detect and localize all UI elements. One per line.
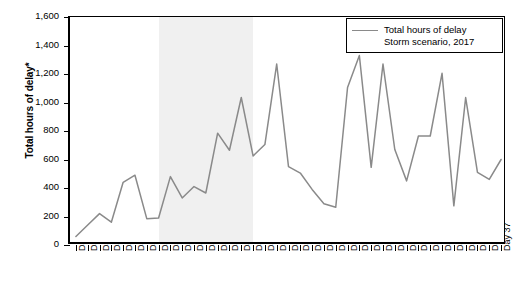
x-axis-tick: [300, 245, 301, 251]
y-axis-tick-label: 800: [43, 125, 59, 135]
legend-entry-line: Total hours of delay Storm scenario, 201…: [352, 24, 496, 47]
x-axis-tick: [359, 245, 360, 251]
y-axis-tick-label: 600: [43, 154, 59, 164]
x-axis-tick: [241, 245, 242, 251]
y-axis-tick: [64, 103, 70, 104]
y-axis-tick: [64, 160, 70, 161]
x-axis-tick: [395, 245, 396, 251]
y-axis-tick-label: 0: [54, 239, 59, 249]
legend-scenario-label: Storm scenario, 2017: [384, 36, 474, 47]
y-axis-tick-label: 1,200: [35, 68, 59, 78]
x-axis-tick: [88, 245, 89, 251]
y-axis-tick-label: 1,000: [35, 97, 59, 107]
x-axis-tick: [182, 245, 183, 251]
x-axis-tick: [489, 245, 490, 251]
x-axis-tick: [147, 245, 148, 251]
chart-figure: Total hours of delay* 02004006008001,000…: [0, 0, 517, 302]
x-axis-tick: [312, 245, 313, 251]
x-axis-tick: [100, 245, 101, 251]
x-axis-tick: [418, 245, 419, 251]
y-axis-tick: [64, 131, 70, 132]
y-axis-tick-label: 200: [43, 211, 59, 221]
x-axis-tick: [123, 245, 124, 251]
x-axis-tick: [383, 245, 384, 251]
x-axis-tick: [229, 245, 230, 251]
x-axis-tick: [371, 245, 372, 251]
y-axis-tick-label: 1,600: [35, 11, 59, 21]
x-axis-tick: [407, 245, 408, 251]
x-axis-tick: [170, 245, 171, 251]
x-axis-tick: [336, 245, 337, 251]
y-axis-tick: [64, 46, 70, 47]
x-axis-tick: [206, 245, 207, 251]
y-axis-tick: [64, 188, 70, 189]
x-axis-tick: [218, 245, 219, 251]
x-axis-tick: [194, 245, 195, 251]
x-axis-tick: [466, 245, 467, 251]
x-axis-tick: [159, 245, 160, 251]
x-axis-tick: [324, 245, 325, 251]
x-axis-tick: [265, 245, 266, 251]
chart-legend: Total hours of delay Storm scenario, 201…: [346, 18, 503, 53]
y-axis-title: Total hours of delay*: [24, 36, 35, 186]
x-axis-tick: [348, 245, 349, 251]
x-axis-tick: [135, 245, 136, 251]
y-axis-tick: [64, 17, 70, 18]
legend-line-swatch-icon: [352, 25, 378, 36]
legend-line-label: Total hours of delay: [384, 24, 466, 35]
x-axis-tick: [253, 245, 254, 251]
x-axis-tick: [277, 245, 278, 251]
y-axis-tick: [64, 74, 70, 75]
y-axis-tick-label: 400: [43, 182, 59, 192]
y-axis-tick: [64, 245, 70, 246]
y-axis-tick: [64, 217, 70, 218]
x-axis-tick: [111, 245, 112, 251]
x-axis-tick: [289, 245, 290, 251]
x-axis-tick: [442, 245, 443, 251]
x-axis-tick: [454, 245, 455, 251]
y-axis-tick-label: 1,400: [35, 40, 59, 50]
x-axis-tick: [430, 245, 431, 251]
x-axis-tick: [76, 245, 77, 251]
x-axis-tick: [501, 245, 502, 251]
x-axis-tick: [477, 245, 478, 251]
